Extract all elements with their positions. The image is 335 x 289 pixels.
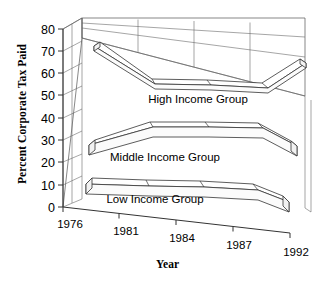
y-axis: 80 70 60 50 40 30 20 10 0 bbox=[41, 23, 63, 215]
chart-container: Percent Corporate Tax Paid Year bbox=[0, 0, 335, 289]
series-label-middle-income: Middle Income Group bbox=[110, 151, 220, 163]
y-tick-20: 20 bbox=[41, 156, 55, 170]
x-tick-1981: 1981 bbox=[113, 225, 139, 237]
series-low-income-group: Low Income Group bbox=[86, 178, 289, 212]
y-tick-70: 70 bbox=[41, 45, 55, 59]
x-axis: 1976 1981 1984 1987 1992 bbox=[57, 207, 309, 258]
y-tick-80: 80 bbox=[41, 23, 55, 37]
y-tick-0: 0 bbox=[48, 201, 55, 215]
series-label-low-income: Low Income Group bbox=[106, 193, 203, 205]
x-tick-1987: 1987 bbox=[226, 239, 252, 251]
y-tick-10: 10 bbox=[41, 179, 55, 193]
x-tick-1976: 1976 bbox=[57, 218, 83, 230]
series-label-high-income: High Income Group bbox=[148, 93, 248, 105]
series-high-income-group: High Income Group bbox=[94, 42, 306, 105]
plot-area: 80 70 60 50 40 30 20 10 0 High Income Gr… bbox=[0, 0, 335, 289]
y-tick-50: 50 bbox=[41, 89, 55, 103]
y-tick-40: 40 bbox=[41, 112, 55, 126]
series-middle-income-group: Middle Income Group bbox=[89, 122, 297, 163]
right-frame bbox=[305, 96, 311, 212]
x-tick-1984: 1984 bbox=[169, 232, 195, 244]
y-tick-30: 30 bbox=[41, 134, 55, 148]
x-tick-1992: 1992 bbox=[283, 246, 309, 258]
left-wall-grid bbox=[63, 18, 82, 207]
y-tick-60: 60 bbox=[41, 67, 55, 81]
